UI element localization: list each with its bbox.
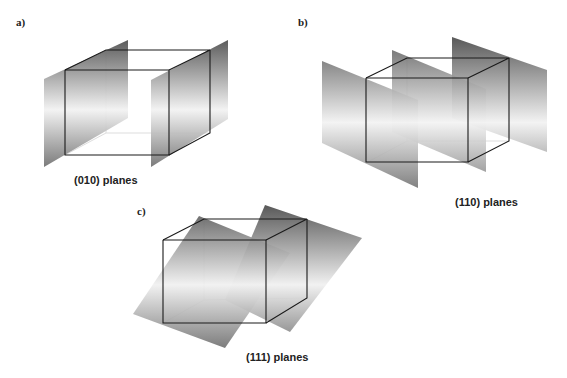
- caption-c: (111) planes: [246, 351, 308, 363]
- plane-010-left: [44, 40, 128, 167]
- caption-a: (010) planes: [74, 174, 138, 186]
- crystal-planes-figure: a) (010) planes b) (110) planes c) (111)…: [0, 0, 567, 378]
- diagram-canvas: [0, 0, 567, 378]
- caption-b: (110) planes: [455, 196, 518, 208]
- panel-a-diagram: [44, 40, 228, 167]
- panel-label-a: a): [16, 16, 25, 28]
- panel-label-c: c): [137, 205, 146, 217]
- panel-c-diagram: [133, 205, 362, 348]
- plane-010-right: [151, 40, 228, 167]
- panel-b-diagram: [322, 37, 547, 188]
- panel-label-b: b): [298, 16, 308, 28]
